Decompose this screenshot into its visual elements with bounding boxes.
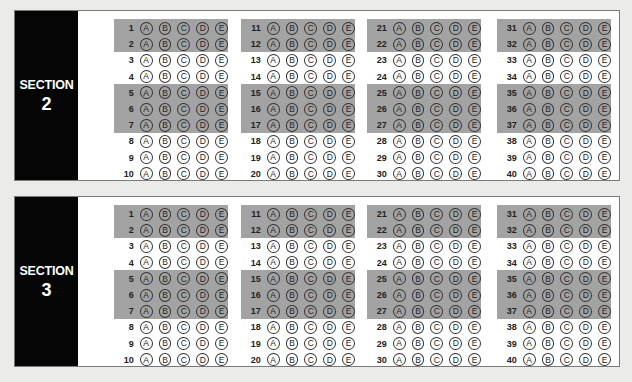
answer-bubble-c[interactable]: C	[304, 22, 317, 35]
answer-bubble-a[interactable]: A	[523, 103, 536, 116]
answer-bubble-c[interactable]: C	[304, 256, 317, 269]
answer-bubble-b[interactable]: B	[286, 38, 299, 51]
answer-bubble-a[interactable]: A	[523, 337, 536, 350]
answer-bubble-d[interactable]: D	[323, 289, 336, 302]
answer-bubble-e[interactable]: E	[215, 240, 228, 253]
answer-bubble-e[interactable]: E	[215, 151, 228, 164]
answer-bubble-d[interactable]: D	[579, 54, 592, 67]
answer-bubble-b[interactable]: B	[412, 38, 425, 51]
answer-bubble-a[interactable]: A	[140, 86, 153, 99]
answer-bubble-b[interactable]: B	[286, 22, 299, 35]
answer-bubble-b[interactable]: B	[542, 272, 555, 285]
answer-bubble-c[interactable]: C	[430, 240, 443, 253]
answer-bubble-b[interactable]: B	[542, 240, 555, 253]
answer-bubble-b[interactable]: B	[159, 54, 172, 67]
answer-bubble-e[interactable]: E	[342, 119, 355, 132]
answer-bubble-b[interactable]: B	[542, 86, 555, 99]
answer-bubble-b[interactable]: B	[542, 353, 555, 366]
answer-bubble-d[interactable]: D	[449, 86, 462, 99]
answer-bubble-b[interactable]: B	[542, 208, 555, 221]
answer-bubble-e[interactable]: E	[598, 240, 611, 253]
answer-bubble-d[interactable]: D	[196, 224, 209, 237]
answer-bubble-b[interactable]: B	[412, 224, 425, 237]
answer-bubble-b[interactable]: B	[286, 305, 299, 318]
answer-bubble-d[interactable]: D	[579, 305, 592, 318]
answer-bubble-b[interactable]: B	[159, 321, 172, 334]
answer-bubble-a[interactable]: A	[140, 38, 153, 51]
answer-bubble-c[interactable]: C	[304, 119, 317, 132]
answer-bubble-a[interactable]: A	[393, 305, 406, 318]
answer-bubble-e[interactable]: E	[215, 70, 228, 83]
answer-bubble-e[interactable]: E	[468, 119, 481, 132]
answer-bubble-a[interactable]: A	[267, 353, 280, 366]
answer-bubble-d[interactable]: D	[323, 224, 336, 237]
answer-bubble-a[interactable]: A	[140, 167, 153, 180]
answer-bubble-a[interactable]: A	[393, 208, 406, 221]
answer-bubble-e[interactable]: E	[342, 224, 355, 237]
answer-bubble-b[interactable]: B	[542, 151, 555, 164]
answer-bubble-e[interactable]: E	[598, 305, 611, 318]
answer-bubble-b[interactable]: B	[412, 305, 425, 318]
answer-bubble-c[interactable]: C	[177, 321, 190, 334]
answer-bubble-d[interactable]: D	[196, 54, 209, 67]
answer-bubble-d[interactable]: D	[579, 240, 592, 253]
answer-bubble-a[interactable]: A	[393, 151, 406, 164]
answer-bubble-e[interactable]: E	[342, 38, 355, 51]
answer-bubble-c[interactable]: C	[177, 240, 190, 253]
answer-bubble-d[interactable]: D	[449, 256, 462, 269]
answer-bubble-d[interactable]: D	[323, 119, 336, 132]
answer-bubble-d[interactable]: D	[323, 256, 336, 269]
answer-bubble-a[interactable]: A	[267, 70, 280, 83]
answer-bubble-e[interactable]: E	[215, 103, 228, 116]
answer-bubble-e[interactable]: E	[215, 337, 228, 350]
answer-bubble-a[interactable]: A	[140, 289, 153, 302]
answer-bubble-e[interactable]: E	[342, 240, 355, 253]
answer-bubble-e[interactable]: E	[468, 240, 481, 253]
answer-bubble-a[interactable]: A	[523, 305, 536, 318]
answer-bubble-e[interactable]: E	[468, 305, 481, 318]
answer-bubble-a[interactable]: A	[140, 135, 153, 148]
answer-bubble-e[interactable]: E	[342, 305, 355, 318]
answer-bubble-a[interactable]: A	[267, 86, 280, 99]
answer-bubble-a[interactable]: A	[523, 208, 536, 221]
answer-bubble-e[interactable]: E	[598, 337, 611, 350]
answer-bubble-c[interactable]: C	[177, 272, 190, 285]
answer-bubble-e[interactable]: E	[215, 305, 228, 318]
answer-bubble-a[interactable]: A	[140, 70, 153, 83]
answer-bubble-a[interactable]: A	[523, 224, 536, 237]
answer-bubble-b[interactable]: B	[542, 70, 555, 83]
answer-bubble-a[interactable]: A	[140, 224, 153, 237]
answer-bubble-d[interactable]: D	[196, 151, 209, 164]
answer-bubble-c[interactable]: C	[560, 353, 573, 366]
answer-bubble-b[interactable]: B	[412, 208, 425, 221]
answer-bubble-d[interactable]: D	[579, 224, 592, 237]
answer-bubble-e[interactable]: E	[342, 289, 355, 302]
answer-bubble-c[interactable]: C	[304, 151, 317, 164]
answer-bubble-a[interactable]: A	[140, 103, 153, 116]
answer-bubble-b[interactable]: B	[286, 135, 299, 148]
answer-bubble-e[interactable]: E	[468, 151, 481, 164]
answer-bubble-c[interactable]: C	[560, 38, 573, 51]
answer-bubble-e[interactable]: E	[215, 256, 228, 269]
answer-bubble-d[interactable]: D	[196, 272, 209, 285]
answer-bubble-e[interactable]: E	[598, 86, 611, 99]
answer-bubble-a[interactable]: A	[523, 240, 536, 253]
answer-bubble-c[interactable]: C	[177, 305, 190, 318]
answer-bubble-c[interactable]: C	[560, 22, 573, 35]
answer-bubble-c[interactable]: C	[304, 224, 317, 237]
answer-bubble-c[interactable]: C	[430, 289, 443, 302]
answer-bubble-c[interactable]: C	[430, 321, 443, 334]
answer-bubble-d[interactable]: D	[196, 289, 209, 302]
answer-bubble-e[interactable]: E	[215, 272, 228, 285]
answer-bubble-e[interactable]: E	[598, 119, 611, 132]
answer-bubble-d[interactable]: D	[579, 208, 592, 221]
answer-bubble-e[interactable]: E	[598, 54, 611, 67]
answer-bubble-e[interactable]: E	[598, 256, 611, 269]
answer-bubble-a[interactable]: A	[267, 167, 280, 180]
answer-bubble-b[interactable]: B	[159, 272, 172, 285]
answer-bubble-d[interactable]: D	[579, 151, 592, 164]
answer-bubble-d[interactable]: D	[449, 272, 462, 285]
answer-bubble-a[interactable]: A	[140, 305, 153, 318]
answer-bubble-b[interactable]: B	[159, 135, 172, 148]
answer-bubble-c[interactable]: C	[560, 240, 573, 253]
